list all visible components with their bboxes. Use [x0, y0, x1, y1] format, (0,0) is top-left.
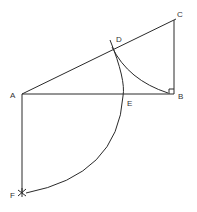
label-f: F	[10, 191, 15, 200]
arc-d-e-f	[26, 40, 123, 193]
label-c: C	[177, 10, 183, 19]
geometry-diagram: A B C D E F	[0, 0, 197, 212]
label-d: D	[116, 35, 122, 44]
label-a: A	[10, 91, 16, 100]
label-e: E	[127, 99, 132, 108]
right-angle-marker	[169, 89, 174, 94]
segment-ac	[22, 19, 176, 94]
point-f-mark	[18, 188, 26, 197]
label-b: B	[178, 92, 183, 101]
